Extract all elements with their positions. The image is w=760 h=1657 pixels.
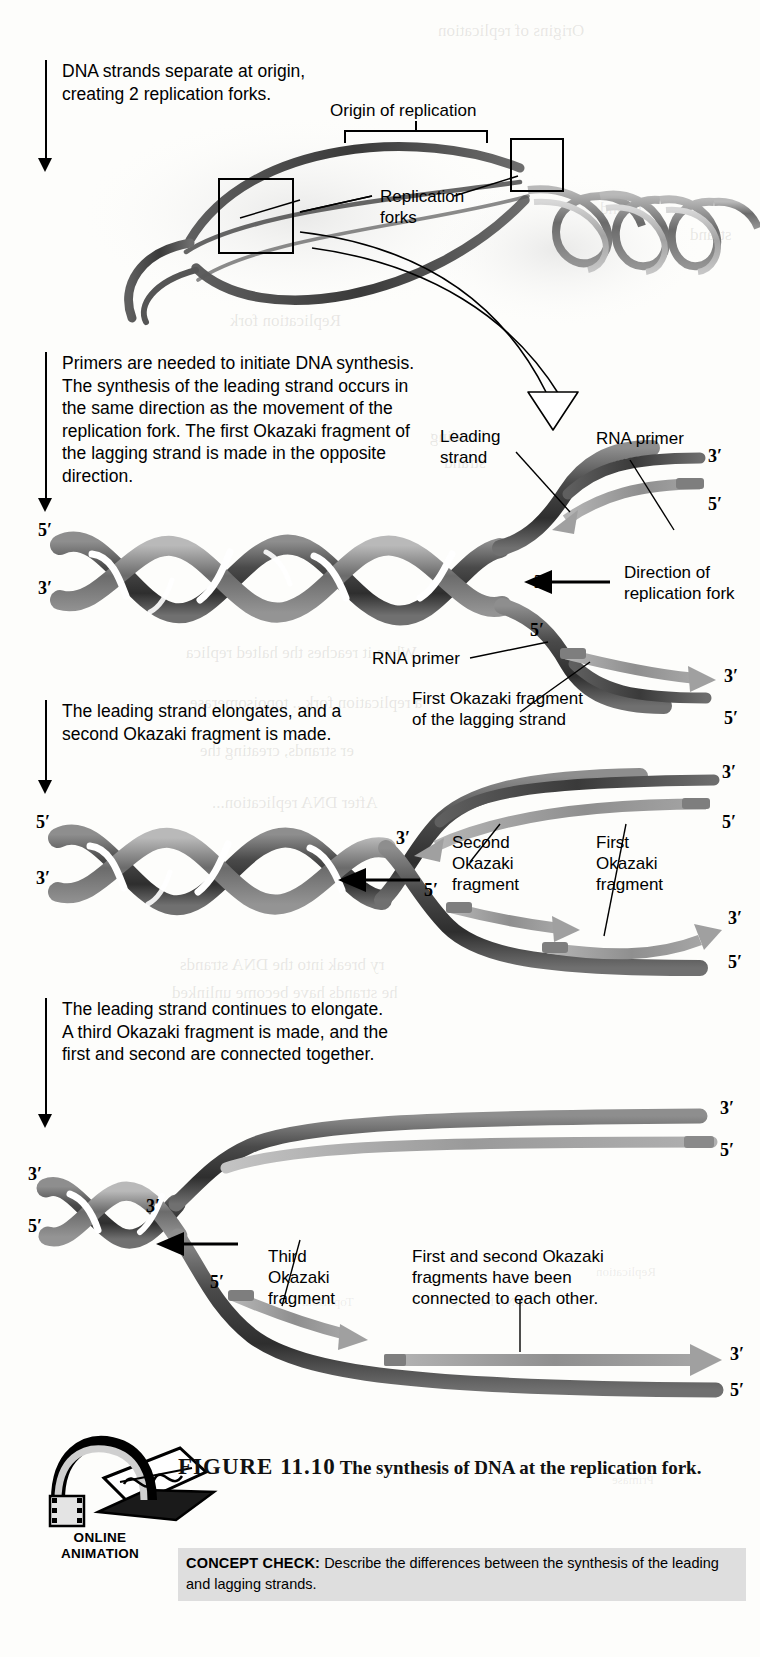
figure-title: The synthesis of DNA at the replication … — [340, 1457, 702, 1478]
concept-check-band: CONCEPT CHECK: Describe the differences … — [178, 1548, 746, 1601]
online-animation-line1: ONLINE — [40, 1530, 160, 1545]
online-animation-line2: ANIMATION — [40, 1546, 160, 1561]
figure-number: FIGURE 11.10 — [178, 1454, 336, 1479]
figure-caption: FIGURE 11.10 The synthesis of DNA at the… — [178, 1454, 744, 1480]
concept-check-heading: CONCEPT CHECK: — [186, 1555, 320, 1571]
figure-page: Origins of replication strand strand Rep… — [0, 0, 760, 1657]
online-animation-icon — [0, 0, 760, 1657]
